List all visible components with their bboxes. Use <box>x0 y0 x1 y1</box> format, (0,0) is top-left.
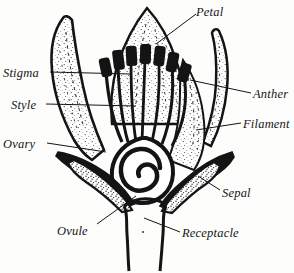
label-style: Style <box>11 98 36 113</box>
label-filament: Filament <box>243 117 290 132</box>
label-sepal: Sepal <box>222 186 251 201</box>
label-stigma: Stigma <box>3 66 39 81</box>
label-ovary: Ovary <box>3 137 35 152</box>
label-ovule: Ovule <box>57 224 88 239</box>
label-anther: Anther <box>253 87 288 102</box>
label-petal: Petal <box>196 5 223 20</box>
petal-left <box>51 16 104 160</box>
flower-diagram-svg <box>0 0 294 273</box>
label-receptacle: Receptacle <box>182 226 239 241</box>
flower-anatomy-figure: Stigma Style Ovary Ovule Petal Anther Fi… <box>0 0 294 273</box>
